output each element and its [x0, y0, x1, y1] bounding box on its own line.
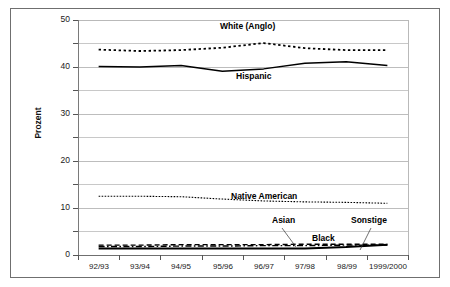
x-tick-label-4: 96/97: [254, 262, 274, 272]
y-axis-line: [78, 20, 79, 256]
gridline-5: [78, 231, 408, 232]
gridline-40: [78, 67, 408, 68]
y-tick-mark-25: [73, 137, 78, 138]
series-label-black: Black: [312, 233, 335, 243]
series-label-native-american: Native American: [231, 191, 297, 201]
x-tick-label-6: 98/99: [337, 262, 357, 272]
y-tick-mark-45: [73, 43, 78, 44]
gridline-30: [78, 114, 408, 115]
y-tick-mark-15: [73, 184, 78, 185]
y-tick-mark-40: [73, 67, 78, 68]
series-label-hispanic: Hispanic: [236, 71, 271, 81]
y-tick-mark-10: [73, 208, 78, 209]
x-tick-label-2: 94/95: [171, 262, 191, 272]
y-tick-label-50: 50: [50, 15, 70, 24]
gridline-35: [78, 90, 408, 91]
x-tick-mark-2: [160, 255, 161, 260]
x-tick-mark-4: [243, 255, 244, 260]
gridline-10: [78, 208, 408, 209]
y-axis-title: Prozent: [33, 107, 43, 138]
y-tick-mark-20: [73, 161, 78, 162]
y-tick-label-40: 40: [50, 62, 70, 71]
x-tick-label-0: 92/93: [89, 262, 109, 272]
x-tick-label-1: 93/94: [130, 262, 150, 272]
gridline-45: [78, 43, 408, 44]
chart-figure: 50 40 30 20 10 0 Prozent 92/93 93/94 94/…: [0, 0, 450, 287]
x-tick-mark-1: [119, 255, 120, 260]
plot-right-edge: [408, 20, 409, 256]
x-tick-label-7: 1999/2000: [369, 262, 407, 272]
y-tick-mark-5: [73, 231, 78, 232]
y-tick-label-10: 10: [50, 203, 70, 212]
y-tick-label-0: 0: [50, 250, 70, 259]
x-tick-label-5: 97/98: [295, 262, 315, 272]
y-tick-mark-30: [73, 114, 78, 115]
x-tick-mark-3: [202, 255, 203, 260]
series-label-white-anglo: White (Anglo): [220, 21, 275, 31]
x-tick-mark-6: [326, 255, 327, 260]
x-tick-mark-start: [78, 255, 79, 260]
x-tick-mark-7: [367, 255, 368, 260]
y-tick-label-30: 30: [50, 109, 70, 118]
gridline-15: [78, 184, 408, 185]
gridline-25: [78, 137, 408, 138]
y-tick-mark-50: [73, 20, 78, 21]
y-tick-mark-35: [73, 90, 78, 91]
figure-border: [10, 8, 440, 278]
x-tick-label-3: 95/96: [213, 262, 233, 272]
x-tick-mark-end: [408, 255, 409, 260]
gridline-20: [78, 161, 408, 162]
x-tick-mark-5: [284, 255, 285, 260]
series-label-asian: Asian: [272, 215, 295, 225]
y-tick-label-20: 20: [50, 156, 70, 165]
series-label-sonstige: Sonstige: [351, 215, 387, 225]
